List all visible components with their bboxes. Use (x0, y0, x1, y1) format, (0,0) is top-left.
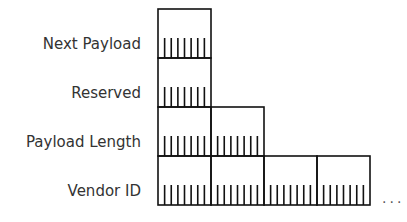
continuation-ellipsis: ... (382, 190, 404, 206)
byte-cell (317, 156, 370, 205)
byte-cell (211, 107, 264, 156)
byte-cell (158, 58, 211, 107)
byte-cell (158, 9, 211, 58)
byte-cell (264, 156, 317, 205)
byte-cell (211, 156, 264, 205)
byte-cell (158, 156, 211, 205)
byte-cell (158, 107, 211, 156)
byte-grid (0, 0, 407, 222)
